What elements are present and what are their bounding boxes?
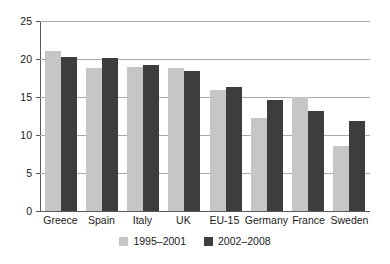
bar-group — [205, 21, 246, 211]
bar — [308, 111, 324, 211]
bar-group — [246, 21, 287, 211]
bar-group — [40, 21, 81, 211]
legend-swatch-icon — [119, 237, 128, 246]
y-tick-label: 0 — [0, 206, 32, 217]
bar — [226, 87, 242, 211]
bar — [184, 71, 200, 211]
chart-legend: 1995–20012002–2008 — [0, 236, 390, 247]
y-tick-label: 15 — [0, 92, 32, 103]
x-tick-label: Italy — [122, 214, 163, 227]
x-tick-label: Germany — [245, 214, 288, 227]
bar — [292, 97, 308, 211]
x-tick-label: UK — [163, 214, 204, 227]
bar-group — [164, 21, 205, 211]
bar — [61, 57, 77, 211]
y-tick-label: 20 — [0, 54, 32, 65]
y-tick-label: 10 — [0, 130, 32, 141]
bar-group — [329, 21, 370, 211]
legend-label: 2002–2008 — [218, 236, 271, 247]
plot-area — [40, 21, 370, 211]
x-tick-label: EU-15 — [204, 214, 245, 227]
y-tick-label: 25 — [0, 16, 32, 27]
x-tick-label: Sweden — [329, 214, 370, 227]
bar — [349, 121, 365, 211]
bar — [102, 58, 118, 211]
bar — [127, 67, 143, 211]
bar — [45, 51, 61, 211]
bar-chart-figure: 0510152025 GreeceSpainItalyUKEU-15German… — [0, 0, 390, 264]
bar — [86, 68, 102, 211]
bar — [267, 100, 283, 211]
gridline — [40, 211, 370, 212]
x-tick-label: France — [288, 214, 329, 227]
x-tick-label: Greece — [40, 214, 81, 227]
x-tick-label: Spain — [81, 214, 122, 227]
legend-label: 1995–2001 — [133, 236, 186, 247]
bar-group — [288, 21, 329, 211]
legend-swatch-icon — [204, 237, 213, 246]
x-axis-labels: GreeceSpainItalyUKEU-15GermanyFranceSwed… — [40, 214, 370, 227]
bar — [168, 68, 184, 211]
bar — [210, 90, 226, 211]
legend-entry: 1995–2001 — [119, 236, 186, 247]
bar-group — [81, 21, 122, 211]
bar — [333, 146, 349, 211]
bar — [251, 118, 267, 211]
legend-entry: 2002–2008 — [204, 236, 271, 247]
bar-group — [123, 21, 164, 211]
bars-layer — [40, 21, 370, 211]
y-tick-label: 5 — [0, 168, 32, 179]
bar — [143, 65, 159, 211]
